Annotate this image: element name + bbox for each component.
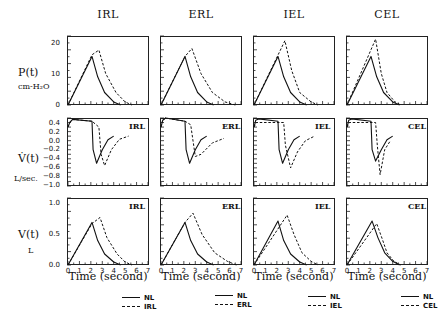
ytick-pressure: 20 [32,39,60,47]
legend-label-dashed: IEL [330,302,342,310]
ytick-volume: 0.5 [32,230,60,238]
series-line-iel [254,215,318,265]
series-line-nl [68,119,114,163]
panel-tag-irl: IRL [129,121,145,131]
column-title-iel: IEL [253,8,335,21]
ytick-flow: 0.4 [32,119,60,127]
series-line-nl [161,222,214,265]
dashed-line-swatch [308,305,326,306]
ytick-flow: −1.0 [32,181,60,189]
ytick-flow: 0.2 [32,128,60,136]
plot-panel-irl-row0 [67,36,149,105]
legend-irl: NL IRL [122,293,156,311]
series-line-erl [161,49,235,106]
series-line-nl [254,221,307,265]
legend-label-solid: NL [144,294,154,302]
solid-line-swatch [122,297,140,298]
x-axis-label-cel: Time (second) [342,270,432,283]
series-line-nl [254,119,300,163]
column-title-cel: CEL [346,8,428,21]
series-line-iel [254,41,318,105]
series-line-nl [347,119,393,161]
panel-tag-cel: CEL [408,121,426,131]
plot-panel-erl-row0 [160,36,242,105]
legend-label-solid: NL [423,293,433,301]
panel-tag-erl: ERL [222,121,240,131]
dashed-line-swatch [401,305,419,306]
x-axis-label-iel: Time (second) [249,270,339,283]
legend-cel: NL CEL [401,292,437,310]
panel-tag-irl: IRL [129,201,145,211]
legend-label-dashed: ERL [237,301,252,309]
ytick-pressure: 10 [32,70,60,78]
ytick-flow: −0.2 [32,145,60,153]
series-line-nl [347,221,400,265]
dashed-line-swatch [122,306,140,307]
ytick-pressure: 0 [32,101,60,109]
series-line-nl [68,56,121,105]
solid-line-swatch [401,296,419,297]
x-axis-label-erl: Time (second) [156,270,246,283]
plot-panel-iel-row0 [253,36,335,105]
legend-label-solid: NL [237,292,247,300]
series-line-nl [161,118,207,163]
solid-line-swatch [308,296,326,297]
column-title-erl: ERL [160,8,242,21]
ytick-flow: −0.8 [32,172,60,180]
ytick-flow: −0.6 [32,163,60,171]
series-line-nl [68,222,121,265]
legend-iel: NL IEL [308,292,342,310]
series-line-cel [347,123,390,175]
ytick-volume: 1.0 [32,199,60,207]
series-line-cel [347,224,401,265]
series-line-nl [254,56,307,105]
series-line-irl [68,50,132,105]
x-axis-label-irl: Time (second) [63,270,153,283]
legend-label-solid: NL [330,293,340,301]
ytick-flow: 0.0 [32,137,60,145]
panel-tag-iel: IEL [315,121,330,131]
series-line-erl [161,213,236,265]
legend-label-dashed: IRL [144,303,156,311]
legend-erl: NL ERL [215,291,252,309]
series-line-iel [254,123,315,168]
ytick-flow: −0.4 [32,154,60,162]
series-line-cel [347,39,401,105]
panel-tag-iel: IEL [315,201,330,211]
panel-tag-erl: ERL [222,201,240,211]
column-title-irl: IRL [67,8,149,21]
legend-label-dashed: CEL [423,302,437,310]
ytick-volume: 0.0 [32,261,60,269]
plot-panel-cel-row0 [346,36,428,105]
panel-tag-cel: CEL [408,201,426,211]
solid-line-swatch [215,295,233,296]
series-line-irl [68,218,132,266]
series-line-erl [161,118,224,157]
dashed-line-swatch [215,304,233,305]
volume-unit-label: L [28,246,33,255]
pressure-unit-label: cm-H₂O [18,82,50,91]
